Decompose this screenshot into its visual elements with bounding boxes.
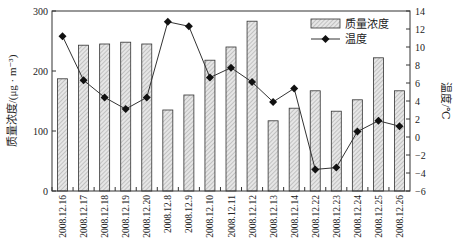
left-tick-label: 300 (33, 6, 48, 17)
right-tick-label: −2 (415, 150, 426, 161)
x-tick-label: 2008.12.14 (290, 195, 300, 238)
bar (268, 121, 278, 191)
bar (142, 44, 152, 191)
bar (58, 79, 68, 191)
x-tick-label: 2008.12.11 (227, 195, 237, 238)
x-tick-label: 2008.12.12 (248, 195, 258, 238)
x-tick-label: 2008.12.25 (374, 195, 384, 238)
x-tick-label: 2008.12.26 (395, 195, 405, 238)
x-tick-label: 2008.12.20 (142, 195, 152, 238)
diamond-marker-icon (185, 22, 193, 30)
legend-bar-label: 质量浓度 (345, 17, 389, 30)
right-axis-title: 温度/℃ (440, 82, 453, 119)
legend: 质量浓度 温度 (311, 17, 389, 45)
right-tick-label: 8 (415, 60, 420, 71)
legend-line-label: 温度 (345, 32, 367, 45)
bar (79, 45, 89, 191)
bar (289, 108, 299, 191)
left-axis-title: 质量浓度/(μg · m⁻³) (5, 54, 19, 147)
bar (310, 91, 320, 191)
right-tick-label: 2 (415, 114, 420, 125)
x-tick-label: 2008.12.13 (269, 195, 279, 238)
bar (352, 100, 362, 191)
x-tick-label: 2008.12.24 (353, 195, 363, 238)
bar (121, 42, 131, 191)
diamond-marker-icon (164, 18, 172, 26)
x-tick-label: 2008.12.18 (100, 195, 110, 238)
left-axis: 0100200300 (33, 6, 56, 197)
diamond-marker-icon (59, 32, 67, 40)
left-tick-label: 100 (33, 126, 48, 137)
chart: 0100200300 −6−4−202468101214 2008.12.162… (0, 0, 453, 244)
x-tick-label: 2008.12.8 (163, 195, 173, 233)
right-tick-label: 12 (415, 24, 425, 35)
bar (394, 91, 404, 191)
bar (331, 111, 341, 191)
bar (184, 95, 194, 191)
bar (100, 44, 110, 191)
diamond-marker-icon (322, 35, 330, 43)
right-tick-label: 10 (415, 42, 425, 53)
x-tick-label: 2008.12.23 (332, 195, 342, 238)
right-tick-label: 0 (415, 132, 420, 143)
right-tick-label: 6 (415, 78, 420, 89)
right-axis: −6−4−202468101214 (406, 6, 426, 197)
x-tick-label: 2008.12.9 (184, 195, 194, 233)
x-tick-label: 2008.12.16 (58, 195, 68, 238)
x-axis: 2008.12.162008.12.172008.12.182008.12.19… (52, 187, 405, 238)
x-tick-label: 2008.12.10 (205, 195, 215, 238)
x-tick-label: 2008.12.19 (121, 195, 131, 238)
left-tick-label: 0 (43, 186, 48, 197)
legend-bar-swatch (311, 19, 340, 28)
bar-series (58, 21, 405, 191)
bar (163, 110, 173, 191)
x-tick-label: 2008.12.22 (311, 195, 321, 238)
x-tick-label: 2008.12.17 (79, 195, 89, 238)
bar (247, 21, 257, 191)
right-tick-label: 4 (415, 96, 420, 107)
right-tick-label: −4 (415, 168, 426, 179)
right-tick-label: −6 (415, 186, 426, 197)
left-tick-label: 200 (33, 66, 48, 77)
right-tick-label: 14 (415, 6, 425, 17)
diamond-marker-icon (290, 84, 298, 92)
